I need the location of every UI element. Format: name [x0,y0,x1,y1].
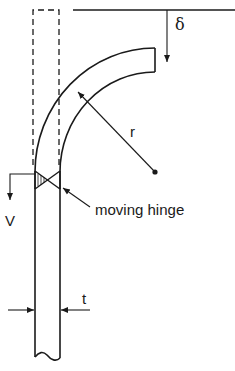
radius-arrow [78,92,155,172]
straight-bar [35,172,60,360]
thickness-label: t [82,291,86,306]
hinge-leader [63,188,90,207]
diagram-canvas [0,0,235,371]
radius-label: r [130,124,135,139]
original-position-outline [33,10,59,165]
velocity-label: V [5,213,15,228]
center-point [152,169,157,174]
delta-label: δ [175,17,185,33]
velocity-arrow [10,174,35,200]
hinge-label: moving hinge [95,202,184,217]
moving-hinge [35,171,60,189]
